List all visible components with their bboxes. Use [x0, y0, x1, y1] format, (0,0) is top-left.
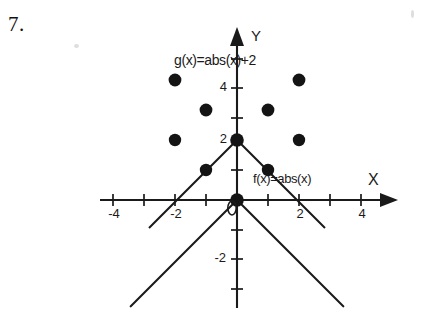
- x-tick-label-minus-4: -4: [105, 207, 123, 220]
- data-point: [293, 134, 305, 146]
- scan-speck: [411, 10, 414, 18]
- y-tick-label-minus-2: -2: [206, 251, 226, 264]
- x-tick-label-4: 4: [353, 207, 371, 220]
- y-tick-label-2: 2: [211, 132, 227, 145]
- x-axis-label: X: [368, 172, 379, 188]
- data-point: [293, 74, 306, 87]
- x-tick-label-2: 2: [291, 207, 309, 220]
- y-axis-label: Y: [251, 28, 261, 43]
- data-point: [200, 104, 213, 117]
- series-f-annotation: f(x)=abs(x): [253, 172, 311, 185]
- data-point: [169, 74, 182, 87]
- data-point: [230, 133, 244, 147]
- y-axis-arrowhead: [230, 27, 244, 46]
- y-axis: [230, 27, 244, 308]
- x-tick-label-minus-2: -2: [167, 207, 185, 220]
- data-point: [262, 104, 275, 117]
- coordinate-plane-figure: [0, 0, 422, 317]
- data-point: [169, 134, 181, 146]
- y-tick-label-4: 4: [211, 80, 227, 93]
- x-axis: [100, 193, 398, 207]
- data-point: [230, 193, 244, 207]
- scan-speck: [74, 44, 79, 48]
- series-g-annotation: g(x)=abs(x)+2: [174, 53, 256, 67]
- data-point: [200, 164, 212, 176]
- x-axis-arrowhead: [380, 193, 398, 207]
